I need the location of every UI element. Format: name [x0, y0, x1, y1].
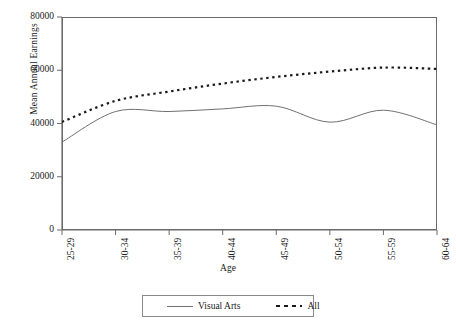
chart-canvas	[0, 0, 456, 330]
series-line-all	[62, 68, 437, 122]
axis-tick-marks	[57, 17, 437, 235]
data-series-group	[62, 68, 437, 143]
legend-item-all: All	[276, 301, 319, 311]
legend-item-visual-arts: Visual Arts	[167, 301, 240, 311]
dashed-line-sample-icon	[276, 302, 302, 310]
chart-figure: Mean Annual Earnings 0200004000060000800…	[0, 0, 456, 330]
legend-label-all: All	[307, 301, 319, 311]
chart-legend: Visual Arts All	[142, 295, 314, 317]
series-line-visual-arts	[62, 106, 437, 143]
legend-label-visual-arts: Visual Arts	[198, 301, 240, 311]
solid-line-sample-icon	[167, 302, 193, 310]
